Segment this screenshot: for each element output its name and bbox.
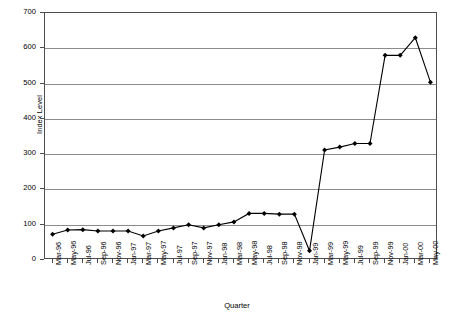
x-tick-label-Jul-97: Jul-97: [176, 245, 184, 265]
x-tick-mark-Sep-96: [97, 259, 98, 263]
x-tick-label-Mar-00: Mar-00: [417, 242, 425, 265]
x-tick-label-May-96: May-96: [70, 241, 78, 265]
x-tick-label-Jan-97: Jan-97: [130, 243, 138, 265]
x-axis-title-text: Quarter: [224, 301, 250, 310]
y-tick-mark-0: [40, 259, 44, 260]
series-line: [53, 38, 431, 251]
x-tick-label-Sep-98: Sep-98: [281, 241, 289, 265]
x-tick-label-Jul-96: Jul-96: [85, 245, 93, 265]
data-point-Sep-99: [367, 141, 372, 146]
x-tick-label-Jul-98: Jul-98: [266, 245, 274, 265]
series-markers: [50, 35, 433, 253]
x-tick-label-Mar-99: Mar-99: [327, 242, 335, 265]
x-tick-label-Mar-97: Mar-97: [145, 242, 153, 265]
y-tick-label-400: 400: [6, 114, 36, 122]
x-tick-label-May-00: May-00: [432, 241, 440, 265]
plot-area: [44, 12, 437, 259]
x-tick-mark-Mar-99: [324, 259, 325, 263]
y-tick-label-300: 300: [6, 149, 36, 157]
x-tick-mark-Sep-97: [188, 259, 189, 263]
data-point-Jul-98: [262, 211, 267, 216]
y-tick-label-100: 100: [6, 220, 36, 228]
x-tick-mark-Jan-98: [218, 259, 219, 263]
x-tick-label-May-99: May-99: [342, 241, 350, 265]
data-point-May-99: [337, 145, 342, 150]
y-tick-label-700: 700: [6, 8, 36, 16]
x-tick-label-Jan-99: Jan-99: [312, 243, 320, 265]
x-tick-label-Nov-97: Nov-97: [206, 241, 214, 265]
x-tick-label-Nov-96: Nov-96: [115, 241, 123, 265]
data-point-Jul-97: [171, 225, 176, 230]
y-tick-label-0: 0: [6, 255, 36, 263]
data-point-Nov-96: [111, 229, 116, 234]
x-tick-label-Jan-00: Jan-00: [402, 243, 410, 265]
y-tick-label-200: 200: [6, 184, 36, 192]
data-point-Jan-98: [216, 222, 221, 227]
data-point-Nov-98: [292, 212, 297, 217]
x-tick-mark-Jul-97: [173, 259, 174, 263]
data-point-Nov-99: [383, 53, 388, 58]
data-point-Jul-96: [80, 227, 85, 232]
data-point-Nov-97: [201, 225, 206, 230]
x-tick-mark-Jan-97: [127, 259, 128, 263]
y-tick-label-500: 500: [6, 79, 36, 87]
x-tick-mark-Jul-96: [82, 259, 83, 263]
x-tick-label-Nov-98: Nov-98: [296, 241, 304, 265]
x-tick-mark-Mar-98: [233, 259, 234, 263]
data-point-Mar-97: [141, 234, 146, 239]
data-point-Mar-99: [322, 147, 327, 152]
x-tick-label-Mar-98: Mar-98: [236, 242, 244, 265]
data-point-May-97: [156, 229, 161, 234]
x-tick-label-Sep-99: Sep-99: [372, 241, 380, 265]
data-point-May-96: [65, 228, 70, 233]
x-tick-mark-Nov-96: [112, 259, 113, 263]
data-series: [45, 13, 438, 260]
x-tick-mark-Jan-99: [309, 259, 310, 263]
y-tick-label-600: 600: [6, 43, 36, 51]
x-tick-mark-Mar-96: [52, 259, 53, 263]
x-tick-mark-Nov-99: [384, 259, 385, 263]
data-point-Jan-97: [126, 229, 131, 234]
x-tick-mark-Sep-99: [369, 259, 370, 263]
x-tick-label-Jul-99: Jul-99: [357, 245, 365, 265]
line-chart: Index Level 0100200300400500600700 Mar-9…: [0, 0, 452, 315]
x-tick-label-Sep-97: Sep-97: [191, 241, 199, 265]
x-tick-mark-Jul-99: [354, 259, 355, 263]
x-tick-mark-May-98: [248, 259, 249, 263]
x-tick-label-Mar-96: Mar-96: [55, 242, 63, 265]
x-axis-title: Quarter: [0, 301, 452, 310]
x-tick-label-May-97: May-97: [160, 241, 168, 265]
data-point-Sep-96: [95, 229, 100, 234]
x-tick-label-Sep-96: Sep-96: [100, 241, 108, 265]
x-tick-mark-May-96: [67, 259, 68, 263]
data-point-Mar-98: [231, 219, 236, 224]
x-tick-label-Nov-99: Nov-99: [387, 241, 395, 265]
x-tick-label-Jan-98: Jan-98: [221, 243, 229, 265]
x-tick-mark-May-99: [339, 259, 340, 263]
x-tick-mark-Nov-97: [203, 259, 204, 263]
x-tick-label-May-98: May-98: [251, 241, 259, 265]
data-point-Sep-98: [277, 212, 282, 217]
data-point-May-98: [247, 211, 252, 216]
data-point-Jul-99: [352, 141, 357, 146]
data-point-Mar-96: [50, 232, 55, 237]
data-point-May-00: [428, 80, 433, 85]
data-point-Sep-97: [186, 222, 191, 227]
